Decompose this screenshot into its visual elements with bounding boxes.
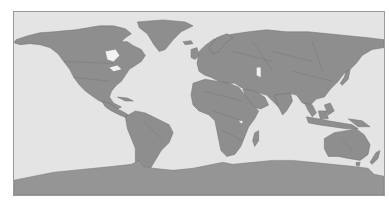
world-map-svg (14, 12, 384, 195)
world-map (13, 11, 385, 196)
iceland (183, 41, 193, 45)
tasmania (356, 162, 360, 166)
